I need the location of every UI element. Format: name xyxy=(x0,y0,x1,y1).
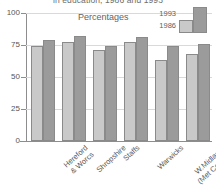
y-tick-label: 100 xyxy=(0,9,20,17)
legend-swatch-1986 xyxy=(179,20,193,33)
x-axis-label: Shropshire xyxy=(95,144,128,175)
bar-1993-staffs xyxy=(105,46,117,141)
bar-group xyxy=(31,13,55,141)
chart-title: in education, 1986 and 1993 xyxy=(0,0,216,5)
x-axis-labels: Hereford& WorcsShropshireStaffsWarwicksW… xyxy=(0,141,216,195)
bar-1993-hereford-worcs xyxy=(43,40,55,141)
legend-label-1993: 1993 xyxy=(146,9,176,18)
x-axis-label-line: Shropshire xyxy=(95,144,128,175)
legend-label-1986: 1986 xyxy=(146,21,176,30)
y-tick-label: 75 xyxy=(0,41,20,49)
legend-swatch-1993 xyxy=(193,7,207,33)
x-axis-label-line: Warwicks xyxy=(156,144,185,172)
bar-1986-west-midlands xyxy=(186,54,198,141)
bar-1993-shropshire xyxy=(74,36,86,141)
y-tick-label: 50 xyxy=(0,73,20,81)
y-tick-label: 25 xyxy=(0,105,20,113)
bar-chart: in education, 1986 and 1993 Percentages … xyxy=(0,0,216,195)
x-axis-label: W.Midlands(Met County) xyxy=(190,144,216,186)
bar-1993-warwicks xyxy=(136,37,148,141)
bar-1993-w-midlands-met-county- xyxy=(167,46,179,141)
bar-group xyxy=(62,13,86,141)
bar-group xyxy=(124,13,148,141)
bar-1986-hereford-worcs xyxy=(31,46,43,141)
bar-1993-west-midlands xyxy=(198,44,210,141)
x-axis-label: Hereford& Worcs xyxy=(62,144,95,176)
bar-1986-staffs xyxy=(93,50,105,141)
x-axis-label: Warwicks xyxy=(156,144,185,172)
bar-group xyxy=(93,13,117,141)
chart-legend: 1993 1986 xyxy=(160,7,212,35)
bar-1986-warwicks xyxy=(124,42,136,141)
bar-1986-w-midlands-met-county- xyxy=(155,60,167,141)
bar-1986-shropshire xyxy=(62,42,74,141)
